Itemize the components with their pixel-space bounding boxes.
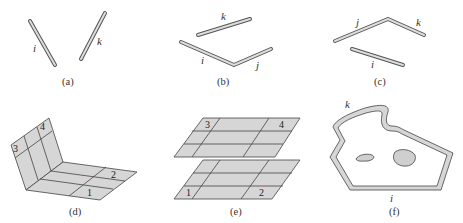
- face-label-1: 1: [186, 187, 191, 198]
- edge-label-k: k: [416, 16, 422, 28]
- panel-e: 3 4 1 2 (e): [174, 118, 300, 218]
- panel-f: k i (f): [330, 98, 453, 218]
- edge-label-k: k: [97, 35, 103, 47]
- face-label-4: 4: [279, 119, 284, 130]
- figure-canvas: i k (a) k i j (b) j k i (c): [0, 0, 463, 223]
- caption-b: (b): [217, 76, 230, 88]
- caption-d: (d): [69, 206, 82, 218]
- face-label-3: 3: [13, 143, 18, 154]
- edge-label-i: i: [201, 54, 204, 66]
- edge-label-k: k: [221, 10, 227, 22]
- caption-c: (c): [374, 76, 386, 88]
- caption-a: (a): [62, 76, 74, 88]
- edge-label-i: i: [371, 58, 374, 70]
- edge-label-i: i: [33, 42, 36, 54]
- panel-c: j k i (c): [335, 16, 424, 88]
- face-label-2: 2: [111, 169, 116, 180]
- edge-label-j: j: [354, 16, 359, 28]
- edge-label-i: i: [390, 192, 393, 204]
- edge-label-k: k: [345, 98, 351, 110]
- face-label-3: 3: [205, 119, 210, 130]
- panel-d: 3 4 2 1 (d): [11, 118, 137, 218]
- figure: i k (a) k i j (b) j k i (c): [0, 0, 463, 223]
- edge-label-j: j: [254, 59, 259, 71]
- caption-f: (f): [389, 206, 400, 218]
- panel-b: k i j (b): [181, 10, 271, 88]
- face-label-4: 4: [40, 121, 45, 132]
- caption-e: (e): [230, 206, 242, 218]
- face-label-2: 2: [259, 187, 264, 198]
- face-label-1: 1: [87, 187, 92, 198]
- panel-a: i k (a): [30, 13, 105, 88]
